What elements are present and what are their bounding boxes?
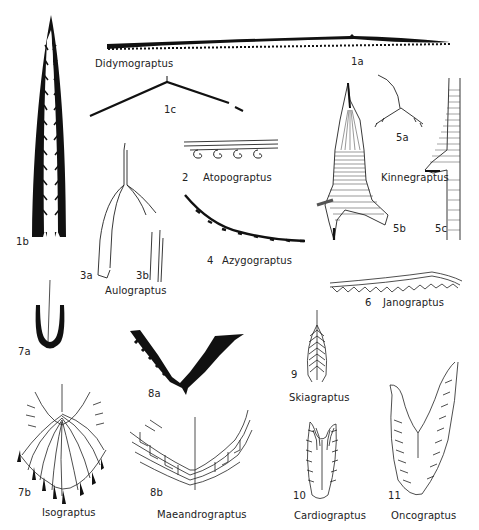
label-azygograptus: Azygograptus (222, 255, 292, 267)
label-aulograptus: Aulograptus (105, 285, 167, 297)
figure-8a-drawing (130, 330, 244, 395)
label-fig-3a: 3a (80, 270, 93, 282)
label-kinnegraptus: Kinnegraptus (381, 172, 449, 184)
label-fig-4: 4 (207, 255, 213, 267)
figure-3-drawing (98, 143, 163, 282)
figure-6-drawing (330, 272, 462, 292)
label-skiagraptus: Skiagraptus (289, 392, 350, 404)
label-fig-5c: 5c (435, 223, 447, 235)
label-fig-6: 6 (365, 297, 371, 309)
label-cardiograptus: Cardiograptus (294, 510, 366, 522)
label-fig-7a: 7a (18, 346, 31, 358)
label-oncograptus: Oncograptus (391, 510, 456, 522)
figure-11-drawing (390, 362, 458, 495)
label-atopograptus: Atopograptus (203, 172, 272, 184)
label-fig-8a: 8a (148, 388, 161, 400)
figure-4-drawing (185, 195, 305, 241)
label-fig-2: 2 (182, 172, 188, 184)
label-fig-8b: 8b (150, 487, 163, 499)
label-fig-1b: 1b (16, 236, 29, 248)
label-janograptus: Janograptus (383, 297, 444, 309)
label-fig-1a: 1a (351, 56, 364, 68)
figure-7a-drawing (36, 280, 65, 349)
figure-9-drawing (307, 310, 326, 382)
figure-10-drawing (306, 422, 338, 499)
label-fig-10: 10 (293, 490, 306, 502)
figure-5c-drawing (425, 78, 460, 240)
label-fig-5b: 5b (393, 223, 406, 235)
label-fig-11: 11 (388, 490, 401, 502)
label-didymograptus: Didymograptus (95, 58, 173, 70)
label-fig-7b: 7b (18, 487, 31, 499)
figure-5a-drawing (375, 75, 423, 127)
label-fig-5a: 5a (396, 132, 409, 144)
figure-2-drawing (184, 140, 278, 158)
label-fig-1c: 1c (164, 104, 176, 116)
graptolite-figure-plate: Didymograptus 1a 1c 1b 2 Atopograptus 3a… (0, 0, 479, 530)
figure-1a-drawing (107, 34, 450, 49)
figure-8b-drawing (130, 410, 252, 490)
label-maeandrograptus: Maeandrograptus (157, 509, 247, 521)
label-fig-9: 9 (291, 369, 297, 381)
figure-1b-drawing (32, 15, 66, 237)
label-fig-3b: 3b (136, 270, 149, 282)
figure-5b-drawing (317, 83, 388, 240)
label-isograptus: Isograptus (42, 507, 96, 519)
